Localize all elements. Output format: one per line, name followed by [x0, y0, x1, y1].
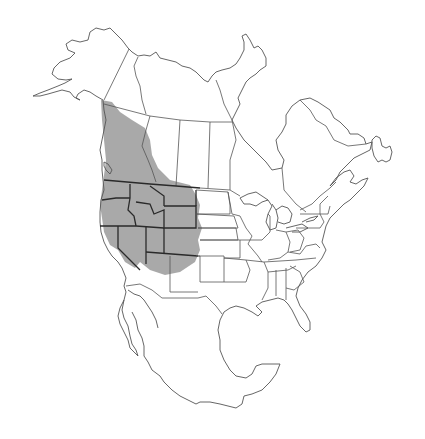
great-lakes — [240, 192, 318, 232]
gulf-of-california-coast — [128, 290, 158, 328]
range-map — [0, 0, 425, 439]
yukon-nwt-border — [134, 57, 146, 114]
us-canada-border-east — [200, 182, 336, 210]
alaska-outline — [33, 28, 208, 100]
alberta-saskatchewan-border — [176, 120, 180, 186]
us-east-coast — [278, 204, 344, 332]
alaska-yukon-border — [104, 49, 129, 100]
maritimes-outline — [330, 170, 368, 204]
north-america-map — [0, 0, 425, 439]
canada-arctic-coast — [208, 34, 266, 120]
newfoundland-outline — [372, 136, 392, 162]
nwt-nunavut-border — [216, 80, 232, 120]
gulf-coast — [132, 298, 280, 408]
saskatchewan-manitoba-border — [208, 122, 210, 188]
ontario-quebec-border — [282, 168, 306, 212]
quebec-labrador-border — [300, 100, 366, 146]
us-mexico-border — [126, 284, 222, 314]
hudson-bay-quebec-coast — [232, 98, 372, 186]
manitoba-ontario-border — [230, 120, 236, 190]
